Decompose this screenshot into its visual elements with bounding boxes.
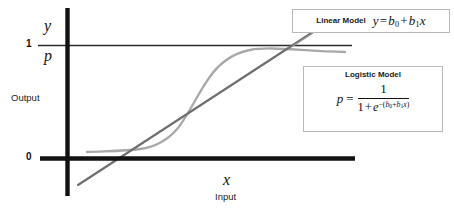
y-axis-title: Output xyxy=(11,93,40,103)
logistic-numerator: 1 xyxy=(380,82,387,98)
denom-plus: + xyxy=(364,100,373,114)
linear-line xyxy=(78,30,316,185)
p-variable-label: p xyxy=(44,48,52,64)
y-tick-label-zero: 0 xyxy=(26,152,32,162)
logistic-denominator: 1+e−(b0+b1x) xyxy=(358,99,410,116)
linear-callout-leader xyxy=(293,33,313,46)
logistic-equals: = xyxy=(346,91,357,107)
x-axis-title: Input xyxy=(215,192,236,202)
linear-model-title: Linear Model xyxy=(316,17,365,26)
logistic-fraction: 1 1+e−(b0+b1x) xyxy=(358,82,410,116)
linear-x-var: x xyxy=(420,13,426,28)
linear-lhs: y xyxy=(373,13,379,28)
logistic-lhs: p xyxy=(337,91,347,107)
exp-close: ) xyxy=(407,100,410,109)
x-variable-label: x xyxy=(223,172,230,188)
linear-model-callout: Linear Model y=b0+b1x xyxy=(292,9,450,33)
logistic-model-equation: p= 1 1+e−(b0+b1x) xyxy=(337,82,410,116)
figure-canvas: 1 0 Output Input y p x Linear Model y=b0… xyxy=(0,0,454,209)
y-variable-label: y xyxy=(44,18,51,34)
linear-equals: = xyxy=(379,13,389,28)
linear-plus: + xyxy=(399,13,409,28)
logistic-model-callout: Logistic Model p= 1 1+e−(b0+b1x) xyxy=(303,66,443,132)
y-tick-label-one: 1 xyxy=(26,39,32,49)
linear-b0-base: b xyxy=(388,13,395,28)
logistic-model-title: Logistic Model xyxy=(345,71,401,80)
exponent-group: −(b0+b1x) xyxy=(378,100,409,109)
linear-model-equation: y=b0+b1x xyxy=(373,13,426,29)
denom-one: 1 xyxy=(358,100,364,114)
